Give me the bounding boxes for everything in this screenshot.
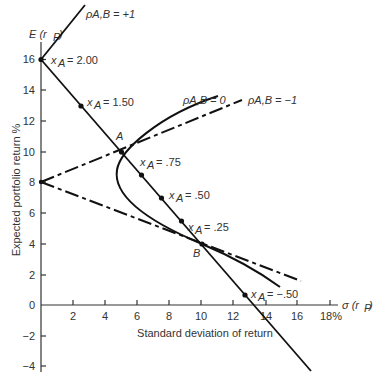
y-tick: 16 bbox=[23, 53, 35, 65]
x-tick: 16 bbox=[291, 310, 303, 322]
xa-150-label: = 1.50 bbox=[103, 96, 134, 108]
svg-text:A: A bbox=[175, 192, 183, 204]
xa-200-label: = 2.00 bbox=[67, 54, 98, 66]
y-axis-symbol: E (r P ) bbox=[29, 28, 63, 43]
svg-text:x: x bbox=[168, 189, 175, 201]
y-tick: 10 bbox=[23, 146, 35, 158]
xa-050-label: = .50 bbox=[185, 189, 210, 201]
x-axis-title: Standard deviation of return bbox=[137, 327, 273, 339]
y-tick: 0 bbox=[29, 299, 35, 311]
point-xa-0-75 bbox=[139, 172, 144, 177]
svg-text:σ (r: σ (r bbox=[342, 299, 360, 311]
y-tick: 14 bbox=[23, 84, 35, 96]
x-axis-symbol: σ (r P ) bbox=[342, 299, 373, 314]
svg-text:A: A bbox=[93, 99, 101, 111]
y-tick: −4 bbox=[22, 360, 35, 372]
y-tick: 8 bbox=[29, 176, 35, 188]
svg-text:A: A bbox=[194, 224, 202, 236]
rho-plus-one-label: ρA,B = +1 bbox=[85, 8, 135, 20]
svg-text:x: x bbox=[86, 96, 93, 108]
rho-zero-label: ρA,B = 0 bbox=[182, 94, 227, 106]
point-min-var bbox=[39, 180, 43, 184]
point-b-label: B bbox=[193, 247, 200, 259]
point-xa-minus-0-50 bbox=[242, 292, 247, 297]
rho-minus-one-label: ρA,B = −1 bbox=[247, 94, 297, 106]
y-tick: −2 bbox=[22, 330, 35, 342]
y-tick: 4 bbox=[29, 238, 35, 250]
svg-text:A: A bbox=[57, 57, 65, 69]
x-tick: 18% bbox=[320, 310, 342, 322]
xa-075-label: = .75 bbox=[156, 156, 181, 168]
portfolio-frontier-chart: 16 14 12 10 8 6 4 2 0 −2 −4 2 4 6 8 10 1… bbox=[0, 0, 374, 376]
x-tick-labels: 2 4 6 8 10 12 14 16 18% bbox=[70, 310, 342, 322]
y-tick: 2 bbox=[29, 269, 35, 281]
y-tick: 6 bbox=[29, 207, 35, 219]
x-axis bbox=[41, 300, 338, 305]
x-tick: 2 bbox=[70, 310, 76, 322]
svg-text:E (r: E (r bbox=[29, 28, 48, 40]
point-xa-1-50 bbox=[78, 103, 83, 108]
x-tick: 4 bbox=[102, 310, 108, 322]
y-tick-labels: 16 14 12 10 8 6 4 2 0 −2 −4 bbox=[22, 53, 35, 372]
svg-text:x: x bbox=[50, 54, 57, 66]
x-tick: 12 bbox=[227, 310, 239, 322]
svg-text:x: x bbox=[139, 156, 146, 168]
x-tick: 6 bbox=[134, 310, 140, 322]
point-a bbox=[119, 149, 124, 154]
y-axis bbox=[41, 42, 46, 372]
series-labels: ρA,B = +1 ρA,B = 0 ρA,B = −1 bbox=[85, 8, 297, 106]
xa-025-label: = .25 bbox=[204, 221, 229, 233]
point-b bbox=[199, 241, 204, 246]
point-xa-0-50 bbox=[159, 195, 164, 200]
x-tick: 8 bbox=[166, 310, 172, 322]
svg-text:x: x bbox=[187, 221, 194, 233]
svg-text:A: A bbox=[146, 159, 154, 171]
y-axis-title: Expected portfolio return % bbox=[10, 123, 22, 256]
point-a-label: A bbox=[115, 130, 123, 142]
svg-text:A: A bbox=[257, 291, 265, 303]
y-tick: 12 bbox=[23, 115, 35, 127]
point-xa-0-25 bbox=[179, 218, 184, 223]
x-tick: 10 bbox=[195, 310, 207, 322]
xa-m050-label: = −.50 bbox=[267, 288, 298, 300]
svg-text:x: x bbox=[250, 288, 257, 300]
point-xa-2-00 bbox=[38, 57, 43, 62]
